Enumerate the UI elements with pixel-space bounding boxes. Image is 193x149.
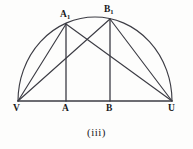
vertex-label-B: B xyxy=(106,104,112,114)
vertex-label-A1: A1 xyxy=(60,10,70,20)
vertex-label-A: A xyxy=(62,104,69,114)
vertex-label-B1: B1 xyxy=(104,5,114,15)
vertex-label-A1-subscript: 1 xyxy=(67,13,70,20)
chord-segment-V-B1 xyxy=(18,19,110,101)
vertex-label-V: V xyxy=(13,104,20,114)
vertex-label-A1-text: A xyxy=(60,9,67,19)
chord-segment-V-A1 xyxy=(18,24,66,101)
geometry-figure: A1 B1 V A B U (iii) xyxy=(0,0,193,149)
chord-segment-A1-U xyxy=(66,24,172,101)
figure-caption: (iii) xyxy=(0,126,193,138)
vertex-label-U: U xyxy=(168,104,175,114)
vertex-label-B1-subscript: 1 xyxy=(110,8,113,15)
semicircle-arc xyxy=(18,17,172,101)
